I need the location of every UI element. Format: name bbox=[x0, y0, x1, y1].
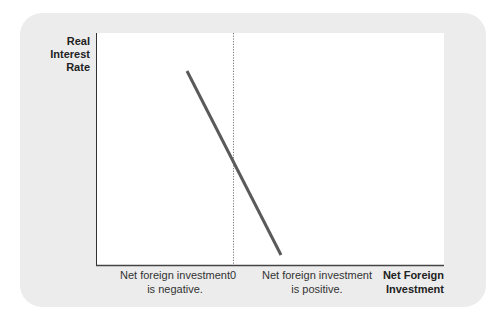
x-tick-positive: Net foreign investmentis positive. bbox=[252, 268, 382, 296]
x-axis-label: Net ForeignInvestment bbox=[378, 268, 444, 296]
y-axis-label: RealInterestRate bbox=[50, 35, 90, 74]
x-tick-zero: 0 bbox=[226, 268, 240, 282]
x-tick-negative: Net foreign investmentis negative. bbox=[110, 268, 240, 296]
